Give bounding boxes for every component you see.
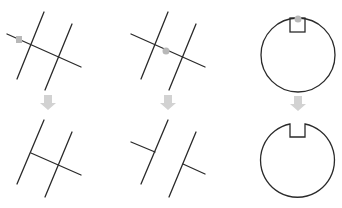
trim-diagram <box>0 0 342 208</box>
arrows <box>40 95 306 111</box>
panel-3-before <box>261 18 335 92</box>
panel-1-before <box>7 12 81 90</box>
pick-marker-1 <box>16 36 22 43</box>
panel-2-after <box>131 120 205 197</box>
down-arrow-icon-3 <box>290 96 306 111</box>
panel-3-after <box>261 124 335 197</box>
down-arrow-icon-1 <box>40 95 56 110</box>
pick-marker-2 <box>163 48 170 55</box>
down-arrow-icon-2 <box>160 95 176 110</box>
panel-1-after <box>17 120 81 197</box>
pick-marker-3 <box>295 16 302 23</box>
